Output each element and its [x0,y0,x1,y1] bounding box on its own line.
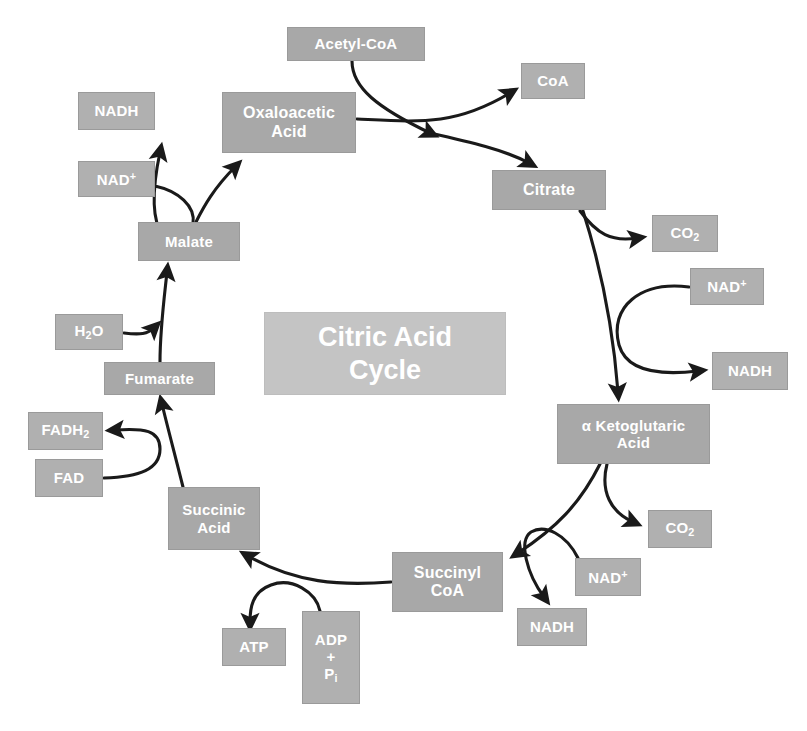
cycle-title-line-2: Cycle [318,354,452,386]
node-label-line-1: Oxaloacetic [243,104,335,122]
node-malate[interactable]: Malate [138,222,240,261]
node-label: CO2 [670,224,699,243]
node-succinic-acid[interactable]: Succinic Acid [168,487,260,550]
arrow-h2o-to-malate [124,328,154,334]
arrow-fad-to-fadh2 [104,429,160,478]
node-label-line-2: Acid [243,123,335,141]
node-fadh2[interactable]: FADH2 [28,412,103,450]
arrow-succinyl-coa-to-succinic-acid [248,556,391,583]
node-oxaloacetic-acid[interactable]: Oxaloacetic Acid [222,92,356,153]
node-label-line-2: + [315,648,347,665]
node-label-line-2: CoA [414,582,481,600]
node-nad-plus-top-left[interactable]: NAD+ [78,161,155,197]
node-citrate[interactable]: Citrate [492,170,606,210]
node-nadh-right[interactable]: NADH [712,352,788,390]
node-label-line-1: Succinyl [414,564,481,582]
node-label: Citrate [523,181,575,199]
node-label: NAD+ [588,568,628,586]
node-alpha-ketoglutaric-acid[interactable]: α Ketoglutaric Acid [557,404,710,464]
node-adp-pi[interactable]: ADP + Pi [302,611,360,704]
node-label: NADH [728,362,772,379]
node-nad-plus-lower[interactable]: NAD+ [575,558,641,596]
node-label-line-2: Acid [182,519,245,536]
node-label: Fumarate [125,370,194,387]
arrow-malate-to-oxaloacetic [196,167,235,222]
node-label: FAD [54,469,85,486]
node-label-line-1: ADP [315,631,347,648]
arrow-succinic-acid-to-fumarate [162,404,183,487]
node-nadh-lower[interactable]: NADH [517,608,587,646]
node-label: NAD+ [707,277,747,295]
node-label: Acetyl-CoA [315,35,398,52]
arrow-alpha-ketoglutaric-to-co2 [605,464,633,522]
node-label: ATP [239,638,269,655]
node-nadh-top-left[interactable]: NADH [78,92,155,130]
arrow-alpha-ketoglutaric-to-succinyl-coa [518,464,600,553]
arrow-oxaloacetic-to-coa [357,93,510,121]
cycle-title-line-1: Citric Acid [318,321,452,353]
node-label: FADH2 [42,421,90,440]
arrow-nad-plus-to-nadh-right [617,286,698,372]
arrow-citrate-to-co2 [580,211,637,239]
arrow-fumarate-to-malate [160,272,167,362]
arrow-acetyl-coa-to-cycle [352,61,430,133]
node-label: NAD+ [97,170,137,188]
node-co2-upper-right[interactable]: CO2 [652,215,718,252]
node-h2o[interactable]: H2O [55,314,123,350]
arrow-citrate-to-alpha-ketoglutaric [583,211,618,392]
node-label: NADH [530,618,574,635]
node-nad-plus-right[interactable]: NAD+ [690,268,764,305]
node-atp[interactable]: ATP [222,628,286,666]
node-label: NADH [94,102,138,119]
node-coa[interactable]: CoA [521,63,585,99]
node-fumarate[interactable]: Fumarate [104,362,215,395]
cycle-title-box: Citric Acid Cycle [264,312,506,395]
node-label-line-3: Pi [315,665,347,684]
node-label: CoA [537,72,568,89]
node-label-line-2: Acid [582,434,686,451]
arrow-nad-plus-to-nadh-lower [525,529,578,597]
arrow-oxaloacetic-to-citrate [430,133,529,163]
citric-acid-cycle-diagram: Citric Acid Cycle Acetyl-CoA CoA Oxaloac… [0,0,807,731]
node-fad[interactable]: FAD [35,459,103,497]
node-succinyl-coa[interactable]: Succinyl CoA [392,552,503,612]
node-label-line-1: α Ketoglutaric [582,417,686,434]
node-label: H2O [74,322,103,341]
node-label: Malate [165,233,213,250]
node-label-line-1: Succinic [182,501,245,518]
node-acetyl-coa[interactable]: Acetyl-CoA [287,27,425,61]
node-co2-lower-right[interactable]: CO2 [648,510,712,548]
node-label: CO2 [665,519,694,538]
